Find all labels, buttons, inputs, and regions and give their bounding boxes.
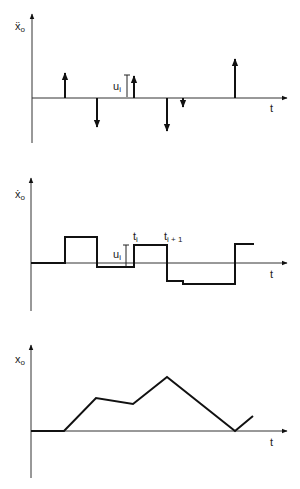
ui-dimension <box>124 75 130 97</box>
panel-position: xo t <box>15 345 287 478</box>
y-axis-label: ẍo <box>15 20 26 34</box>
ti-plus-1-label: ti + 1 <box>164 230 183 244</box>
panel-acceleration: ẍo t ui <box>15 14 287 143</box>
velocity-curve <box>31 237 254 284</box>
t-axis-label: t <box>270 102 273 114</box>
ui-label: ui <box>113 80 121 94</box>
ti-label: ti <box>133 230 138 244</box>
ui-label: ui <box>113 248 121 262</box>
impulses <box>65 59 235 131</box>
figure: ẍo t ui ẋo t ui ti ti + 1 <box>0 0 300 489</box>
y-axis-label: xo <box>15 353 26 367</box>
panel-velocity: ẋo t ui ti ti + 1 <box>15 178 287 311</box>
y-axis-label: ẋo <box>15 188 26 202</box>
position-curve <box>31 377 253 431</box>
t-axis-label: t <box>270 436 273 448</box>
t-axis-label: t <box>270 268 273 280</box>
